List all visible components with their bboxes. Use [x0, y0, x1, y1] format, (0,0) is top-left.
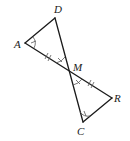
label-m: M [72, 61, 83, 73]
segment-ad [25, 18, 55, 43]
label-c: C [77, 125, 85, 137]
label-r: R [113, 92, 121, 104]
angle-mark-a [33, 37, 35, 48]
segment-rc [83, 98, 112, 122]
label-a: A [13, 38, 21, 50]
label-d: D [53, 3, 62, 15]
geometry-diagram: D A M R C [0, 0, 130, 141]
